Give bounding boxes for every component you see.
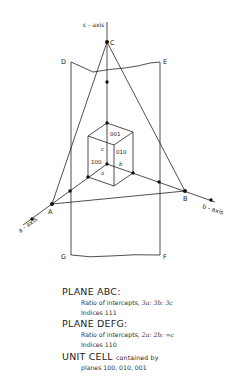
plane-defg-bottom-edge bbox=[71, 255, 160, 257]
point-e-label: E bbox=[163, 58, 167, 66]
b-axis-line bbox=[107, 164, 215, 202]
cube-label-010: 010 bbox=[116, 149, 127, 155]
point-f-label: F bbox=[163, 253, 167, 261]
cube-label-001: 001 bbox=[110, 131, 121, 137]
cube-edge-b: b bbox=[119, 161, 123, 167]
point-g-label: G bbox=[61, 253, 66, 261]
point-a-label: A bbox=[48, 208, 53, 216]
point-c-label: C bbox=[110, 39, 115, 47]
point-b-label: B bbox=[183, 195, 187, 203]
c-axis-label: c - axis bbox=[83, 21, 104, 28]
cube-edge-c: c bbox=[101, 146, 104, 152]
plane-abc bbox=[52, 42, 185, 204]
intercept-dots bbox=[30, 40, 212, 221]
a-axis-line bbox=[23, 164, 107, 225]
plane-defg-top-edge bbox=[71, 62, 160, 72]
crystal-plane-diagram: c - axis C D E A B G F a - axis b - axis… bbox=[0, 0, 250, 389]
cube-edge-a: a bbox=[101, 170, 104, 176]
point-d-label: D bbox=[61, 58, 66, 66]
cube-label-100: 100 bbox=[91, 159, 102, 165]
b-axis-label: b - axis bbox=[202, 202, 225, 215]
a-axis-label: a - axis bbox=[16, 215, 38, 233]
